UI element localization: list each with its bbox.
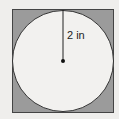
diagram-canvas: 2 in [0,0,119,119]
radius-label: 2 in [67,29,85,41]
center-point [61,59,65,63]
